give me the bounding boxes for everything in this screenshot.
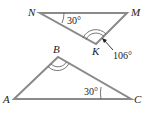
label-a: A	[2, 93, 10, 105]
label-b: B	[53, 43, 60, 55]
label-m: M	[130, 6, 141, 18]
label-n: N	[27, 6, 36, 18]
triangle-diagram: N M K 30° 106° B A C 30°	[0, 0, 146, 119]
angle-arc-n	[62, 13, 64, 23]
triangle-abc	[14, 57, 131, 99]
angle-label-n: 30°	[67, 15, 81, 26]
triangle-nmk	[40, 13, 127, 44]
angle-label-c: 30°	[84, 86, 98, 97]
label-k: K	[91, 45, 100, 57]
angle-label-k: 106°	[113, 50, 132, 61]
label-c: C	[134, 93, 142, 105]
angle-arc-c	[100, 87, 101, 99]
